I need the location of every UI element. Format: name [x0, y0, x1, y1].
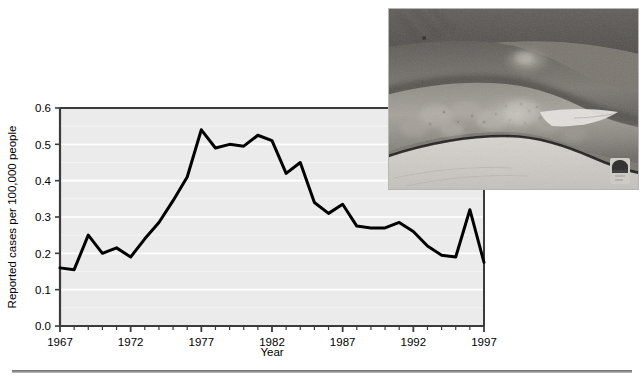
y-axis: 0.00.10.20.30.40.50.6	[35, 102, 60, 332]
y-tick-label: 0.0	[35, 320, 51, 332]
x-tick-label: 1992	[401, 336, 427, 348]
x-axis-title: Year	[260, 346, 283, 358]
x-tick-label: 1967	[47, 336, 73, 348]
bottom-divider-rule	[12, 370, 632, 373]
inset-photograph	[388, 8, 639, 190]
x-axis: 1967197219771982198719921997	[47, 326, 497, 348]
y-tick-label: 0.3	[35, 211, 51, 223]
x-tick-label: 1977	[189, 336, 215, 348]
photograph-canvas	[388, 8, 639, 190]
figure-root: 0.00.10.20.30.40.50.6 196719721977198219…	[0, 0, 644, 384]
x-tick-label: 1972	[118, 336, 144, 348]
y-axis-title: Reported cases per 100,000 people	[6, 126, 18, 309]
y-tick-label: 0.1	[35, 284, 51, 296]
y-tick-label: 0.4	[35, 175, 52, 187]
y-tick-label: 0.2	[35, 248, 51, 260]
x-tick-label: 1987	[330, 336, 356, 348]
y-tick-label: 0.5	[35, 139, 51, 151]
photo-content	[388, 8, 639, 190]
x-tick-label: 1997	[471, 336, 497, 348]
y-tick-label: 0.6	[35, 102, 51, 114]
